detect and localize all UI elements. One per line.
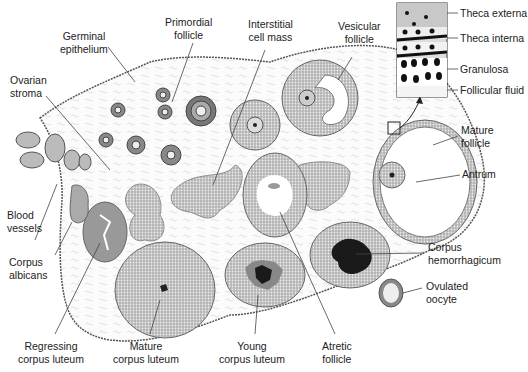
label-line: Interstitial (248, 18, 293, 31)
label-line: follicle (338, 33, 381, 46)
label-ovarian-stroma: Ovarian stroma (10, 74, 47, 99)
inset-follicle-wall (397, 3, 447, 97)
regressing-corpus-luteum (83, 202, 127, 262)
corpus-albicans (70, 185, 88, 223)
label-antrum: Antrum (462, 168, 496, 181)
vesicular-follicle (282, 60, 358, 136)
label-line: Blood (7, 209, 42, 222)
label-line: follicle (461, 137, 494, 150)
inset-label-granulosa: Granulosa (460, 63, 508, 76)
inset-label-theca-externa: Theca externa (460, 7, 527, 20)
label-line: vessels (7, 222, 42, 235)
label-line: hemorrhagicum (428, 254, 501, 267)
inset-label-theca-interna: Theca interna (460, 32, 524, 45)
label-line: follicle (322, 353, 352, 366)
corpus-hemorrhagicum (310, 222, 390, 288)
label-young-corpus-luteum: Young corpus luteum (219, 340, 285, 365)
ovulated-oocyte (379, 279, 403, 307)
label-line: follicle (165, 29, 212, 42)
mature-corpus-luteum (115, 242, 215, 338)
label-mature-follicle: Mature follicle (461, 124, 494, 149)
label-line: Vesicular (338, 20, 381, 33)
label-line: Regressing (18, 340, 84, 353)
label-vesicular-follicle: Vesicular follicle (338, 20, 381, 45)
label-line: Ovulated (426, 280, 468, 293)
label-line: corpus luteum (219, 353, 285, 366)
label-line: Atretic (322, 340, 352, 353)
label-line: albicans (9, 269, 48, 282)
label-line: Young (219, 340, 285, 353)
label-interstitial-cell-mass: Interstitial cell mass (248, 18, 293, 43)
growing-follicle (230, 100, 280, 150)
label-line: Corpus (428, 241, 501, 254)
label-primordial-follicle: Primordial follicle (165, 16, 212, 41)
label-line: stroma (10, 87, 47, 100)
atretic-follicle (243, 153, 307, 237)
label-atretic-follicle: Atretic follicle (322, 340, 352, 365)
label-line: Primordial (165, 16, 212, 29)
label-line: Corpus (9, 256, 48, 269)
label-mature-corpus-luteum: Mature corpus luteum (113, 340, 179, 365)
label-blood-vessels: Blood vessels (7, 209, 42, 234)
ovary-diagram (0, 0, 528, 372)
label-line: Mature (461, 124, 494, 137)
label-line: oocyte (426, 293, 468, 306)
label-line: Antrum (462, 168, 496, 181)
label-line: Ovarian (10, 74, 47, 87)
inset-label-follicular-fluid: Follicular fluid (460, 84, 524, 97)
label-line: corpus luteum (18, 353, 84, 366)
label-corpus-hemorrhagicum: Corpus hemorrhagicum (428, 241, 501, 266)
label-corpus-albicans: Corpus albicans (9, 256, 48, 281)
label-ovulated-oocyte: Ovulated oocyte (426, 280, 468, 305)
label-line: Germinal (60, 30, 108, 43)
label-line: epithelium (60, 43, 108, 56)
young-corpus-luteum (225, 243, 305, 307)
label-germinal-epithelium: Germinal epithelium (60, 30, 108, 55)
label-regressing-corpus-luteum: Regressing corpus luteum (18, 340, 84, 365)
label-line: corpus luteum (113, 353, 179, 366)
label-line: Mature (113, 340, 179, 353)
label-line: cell mass (248, 31, 293, 44)
